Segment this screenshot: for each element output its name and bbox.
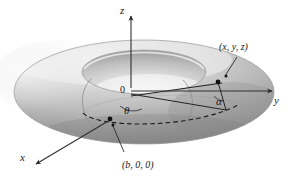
b-point-label: (b, 0, 0) bbox=[122, 159, 154, 171]
theta-label: θ bbox=[124, 104, 130, 116]
axis-x-label: x bbox=[19, 151, 25, 163]
b-point-dot bbox=[108, 117, 113, 122]
surface-point-label: (x, y, z) bbox=[219, 41, 249, 53]
axis-z-label: z bbox=[119, 4, 125, 16]
alpha-label: α bbox=[216, 95, 222, 107]
surface-point-dot bbox=[216, 80, 221, 85]
axis-y-label: y bbox=[273, 94, 279, 106]
torus-diagram-canvas: z y x 0 θ α bbox=[0, 0, 288, 178]
torus-diagram-figure: z y x 0 θ α bbox=[0, 0, 288, 178]
origin-label: 0 bbox=[120, 84, 125, 95]
